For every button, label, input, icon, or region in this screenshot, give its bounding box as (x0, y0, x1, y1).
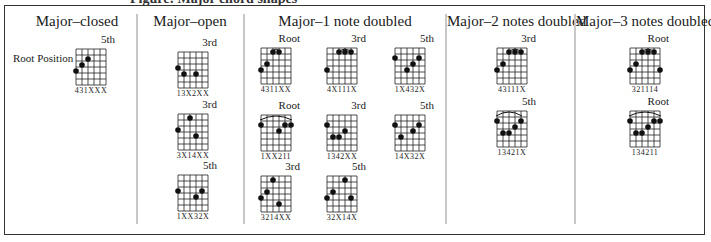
finger-dot (657, 118, 663, 124)
finger-dot (175, 127, 181, 133)
finger-dot (330, 134, 336, 140)
finger-dot (175, 188, 181, 194)
finger-dot (264, 189, 270, 195)
finger-dot (639, 130, 645, 136)
finger-dot (348, 49, 354, 55)
fingering-label: 13421X (490, 148, 534, 157)
fretboard-grid (494, 46, 531, 86)
finger-dot (342, 177, 348, 183)
finger-dot (199, 188, 205, 194)
finger-dot (342, 49, 348, 55)
finger-dot (657, 67, 663, 73)
fretboard-grid (324, 174, 361, 214)
fretboard-grid (392, 46, 429, 86)
finger-dot (276, 201, 282, 207)
finger-dot (651, 118, 657, 124)
finger-dot (282, 122, 288, 128)
chord-degree-label: 5th (352, 160, 366, 172)
fretboard-grid (324, 46, 361, 86)
fingering-label: 43111X (490, 85, 534, 94)
chord-degree-label: Root (648, 95, 669, 107)
fretboard-grid (258, 174, 295, 214)
finger-dot (494, 118, 500, 124)
fingering-label: 32X14X (320, 213, 364, 222)
fretboard-grid (175, 112, 212, 152)
fretboard-grid (73, 47, 110, 87)
finger-dot (410, 61, 416, 67)
column-title: Major–closed (13, 13, 141, 30)
chord-degree-label: 3rd (351, 32, 366, 44)
finger-dot (627, 118, 633, 124)
chord-degree-label: 5th (420, 32, 434, 44)
finger-dot (398, 134, 404, 140)
chord-degree-label: Root (648, 32, 669, 44)
finger-dot (270, 49, 276, 55)
finger-dot (193, 133, 199, 139)
finger-dot (336, 49, 342, 55)
column-title: Major–1 note doubled (245, 13, 445, 30)
finger-dot (633, 61, 639, 67)
finger-dot (264, 61, 270, 67)
finger-dot (324, 122, 330, 128)
column-major-open: Major–open 3rd13X2XX 3rd3X14XX 5th1XX32X (138, 6, 242, 234)
finger-dot (258, 122, 264, 128)
column-major-1-note-doubled: Major–1 note doubled Root4311XX 3rd4X111… (245, 6, 445, 234)
fretboard-grid (392, 113, 429, 153)
fingering-label: 14X32X (388, 152, 432, 161)
finger-dot (518, 49, 524, 55)
fretboard-grid (494, 109, 531, 149)
finger-dot (324, 195, 330, 201)
finger-dot (193, 71, 199, 77)
finger-dot (392, 122, 398, 128)
chord-degree-label: 5th (203, 159, 217, 171)
finger-dot (627, 67, 633, 73)
fretboard-grid (258, 113, 295, 153)
finger-dot (645, 124, 651, 130)
finger-dot (494, 67, 500, 73)
finger-dot (512, 124, 518, 130)
chord-degree-label: 5th (101, 33, 115, 45)
finger-dot (410, 128, 416, 134)
fingering-label: 321114 (623, 85, 667, 94)
chord-degree-label: 5th (420, 99, 434, 111)
chord-degree-label: 3rd (202, 98, 217, 110)
column-major-closed: Major–closed Root Position 5th431XXX (5, 6, 133, 234)
finger-dot (258, 67, 264, 73)
fingering-label: 1X432X (388, 85, 432, 94)
finger-dot (500, 130, 506, 136)
column-title: Major–open (138, 13, 242, 30)
finger-dot (270, 177, 276, 183)
fretboard-grid (258, 46, 295, 86)
finger-dot (645, 49, 651, 55)
chord-degree-label: Root (279, 99, 300, 111)
fingering-label: 431XXX (69, 86, 113, 95)
finger-dot (79, 62, 85, 68)
finger-dot (416, 122, 422, 128)
finger-dot (85, 56, 91, 62)
barre-arc (260, 116, 292, 120)
chord-degree-label: 3rd (202, 36, 217, 48)
finger-dot (276, 128, 282, 134)
fingering-label: 4X111X (320, 85, 364, 94)
column-title: Major–2 notes doubled (447, 13, 573, 30)
finger-dot (288, 122, 294, 128)
finger-dot (193, 194, 199, 200)
finger-dot (324, 67, 330, 73)
finger-dot (404, 67, 410, 73)
finger-dot (651, 49, 657, 55)
finger-dot (181, 71, 187, 77)
fretboard-grid (627, 109, 664, 149)
chord-chart-frame: Major–closed Root Position 5th431XXX Maj… (4, 5, 705, 235)
chord-degree-label: Root (279, 32, 300, 44)
chord-degree-label: 3rd (521, 32, 536, 44)
finger-dot (639, 49, 645, 55)
finger-dot (73, 68, 79, 74)
finger-dot (506, 130, 512, 136)
finger-dot (258, 195, 264, 201)
finger-dot (633, 130, 639, 136)
finger-dot (392, 55, 398, 61)
fretboard-grid (324, 113, 361, 153)
finger-dot (518, 118, 524, 124)
fingering-label: 4311XX (254, 85, 298, 94)
finger-dot (500, 61, 506, 67)
